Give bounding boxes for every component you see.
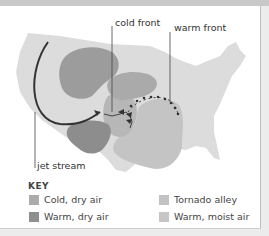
swatch-tornado-alley [159,195,169,205]
key-label: Tornado alley [174,194,237,205]
key-item-cold-dry: Cold, dry air [29,194,102,205]
key-label: Warm, moist air [174,211,249,222]
key-title: KEY [28,181,49,191]
swatch-warm-moist [159,212,169,222]
warm-front-label: warm front [174,22,226,33]
key-label: Warm, dry air [44,211,109,222]
key-label: Cold, dry air [44,194,102,205]
key-item-warm-moist: Warm, moist air [159,211,249,222]
jet-stream-label: jet stream [37,160,86,171]
cold-front-label: cold front [115,17,160,28]
swatch-warm-dry [29,212,39,222]
swatch-cold-dry [29,195,39,205]
key-item-warm-dry: Warm, dry air [29,211,109,222]
key-item-tornado-alley: Tornado alley [159,194,237,205]
